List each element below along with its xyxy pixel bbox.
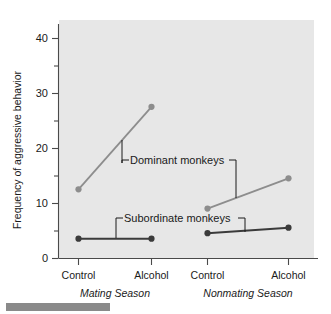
x-label-mating-control: Control [62, 269, 96, 281]
figure-container: 0 10 20 30 40 Frequency of aggressive be… [0, 0, 331, 314]
data-point-dominant-mating-control [75, 186, 81, 192]
subordinate-annotation-label: Subordinate monkeys [124, 212, 231, 224]
data-point-subordinate-mating-control [75, 236, 81, 242]
data-point-dominant-nonmating-alcohol [285, 175, 291, 181]
footer-bar [6, 303, 110, 311]
data-point-subordinate-nonmating-alcohol [285, 225, 291, 231]
data-point-subordinate-nonmating-control [204, 230, 210, 236]
y-tick-label-10: 10 [36, 197, 48, 209]
y-axis-title: Frequency of aggressive behavior [11, 70, 23, 229]
data-point-dominant-mating-alcohol [148, 104, 154, 110]
x-label-nonmating-alcohol: Alcohol [271, 269, 305, 281]
data-point-subordinate-mating-alcohol [148, 236, 154, 242]
data-point-dominant-nonmating-control [204, 206, 210, 212]
x-label-nonmating-control: Control [191, 269, 225, 281]
dominant-annotation-label: Dominant monkeys [130, 154, 225, 166]
y-tick-label-30: 30 [36, 87, 48, 99]
x-axis-ticks [79, 259, 289, 266]
y-tick-label-20: 20 [36, 142, 48, 154]
x-label-mating-alcohol: Alcohol [134, 269, 168, 281]
group-label-nonmating-season: Nonmating Season [203, 287, 292, 299]
y-tick-label-0: 0 [42, 252, 48, 264]
y-tick-label-40: 40 [36, 32, 48, 44]
group-label-mating-season: Mating Season [80, 287, 150, 299]
y-axis-major-ticks [52, 39, 59, 259]
aggression-line-chart: 0 10 20 30 40 Frequency of aggressive be… [0, 0, 331, 314]
